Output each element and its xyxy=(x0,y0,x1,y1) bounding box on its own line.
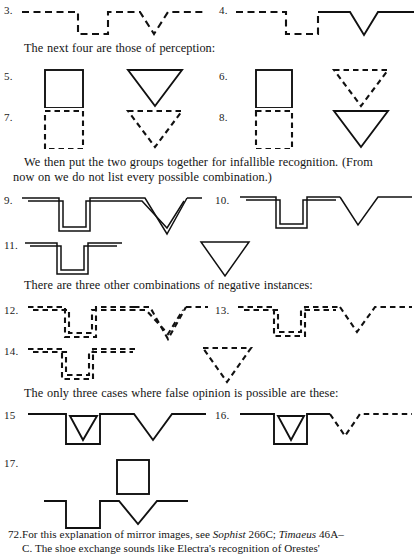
paragraph-infallible-line2: now on we do not list every possible com… xyxy=(13,170,405,186)
footnote-title-timaeus: Timaeus xyxy=(279,528,316,540)
figure-16-diagram xyxy=(236,406,416,450)
paragraph-negative: There are three other combinations of ne… xyxy=(24,278,416,294)
figure-15-diagram xyxy=(22,406,212,450)
footnote-line1-a: For this explanation of mirror images, s… xyxy=(22,528,213,540)
figure-7-diagram xyxy=(20,107,210,149)
footnote-block: 72.For this explanation of mirror images… xyxy=(8,527,414,541)
figure-3-diagram xyxy=(20,4,210,40)
figure-number-12: 12. xyxy=(4,304,18,316)
figure-8-diagram xyxy=(234,107,416,149)
figure-number-6: 6. xyxy=(219,70,228,82)
figure-13-diagram xyxy=(236,300,416,344)
figure-6-diagram xyxy=(234,66,416,108)
figure-number-4: 4. xyxy=(219,4,228,16)
figure-number-9: 9. xyxy=(4,194,13,206)
figure-number-10: 10. xyxy=(215,194,229,206)
figure-9-diagram xyxy=(16,190,206,238)
paragraph-false-opinion: The only three cases where false opinion… xyxy=(24,386,416,402)
paragraph-infallible-line1: We then put the two groups together for … xyxy=(24,155,416,171)
figure-12-diagram xyxy=(22,300,212,344)
figure-11-diagram xyxy=(16,236,266,280)
footnote-line1-c: 46A– xyxy=(316,528,344,540)
figure-number-15: 15 xyxy=(4,409,15,421)
figure-5-diagram xyxy=(20,66,210,108)
paragraph-perception: The next four are those of perception: xyxy=(24,41,404,57)
footnote-title-sophist: Sophist xyxy=(213,528,246,540)
figure-10-diagram xyxy=(236,190,416,238)
figure-number-3: 3. xyxy=(4,4,13,16)
figure-number-16: 16. xyxy=(215,409,229,421)
footnote-marker: 72. xyxy=(8,528,22,540)
figure-17-diagram xyxy=(16,456,216,534)
figure-14-diagram xyxy=(22,342,272,386)
figure-number-14: 14. xyxy=(4,345,18,357)
figure-number-8: 8. xyxy=(219,111,228,123)
document-page: 3. 4. The next four are those of percept… xyxy=(0,0,418,558)
figure-number-7: 7. xyxy=(4,111,13,123)
footnote-line1-b: 266C; xyxy=(246,528,279,540)
figure-number-13: 13. xyxy=(215,304,229,316)
footnote-line2: C. The shoe exchange sounds like Electra… xyxy=(22,541,414,555)
figure-number-5: 5. xyxy=(4,70,13,82)
figure-4-diagram xyxy=(234,4,416,40)
